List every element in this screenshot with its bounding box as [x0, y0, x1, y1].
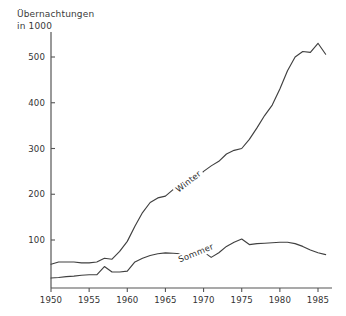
y-tick-label: 300: [28, 144, 45, 154]
x-tick-label: 1985: [307, 295, 329, 305]
x-tick-label: 1955: [78, 295, 100, 305]
y-tick-label: 500: [28, 52, 45, 62]
x-tick-label: 1960: [116, 295, 138, 305]
y-tick-label: 200: [28, 189, 45, 199]
x-tick-label: 1975: [231, 295, 253, 305]
chart-container: Übernachtungen in 1000 100200300400500 1…: [0, 0, 346, 316]
x-tick-label: 1965: [154, 295, 176, 305]
x-tick-label: 1980: [269, 295, 291, 305]
y-tick-label: 400: [28, 98, 45, 108]
x-axis-ticks: 19501955196019651970197519801985: [40, 288, 329, 305]
chart-plot-area: 100200300400500 195019551960196519701975…: [0, 0, 346, 316]
y-tick-label: 100: [28, 235, 45, 245]
series-label-text: Winter: [174, 168, 204, 194]
x-tick-label: 1970: [192, 295, 214, 305]
series-label-winter: Winter: [172, 167, 206, 197]
chart-series-group: [51, 43, 326, 278]
series-line-winter: [51, 43, 326, 264]
series-label-sommer: Sommer: [177, 241, 216, 265]
x-tick-label: 1950: [40, 295, 62, 305]
chart-series-labels: WinterSommer: [172, 167, 216, 265]
